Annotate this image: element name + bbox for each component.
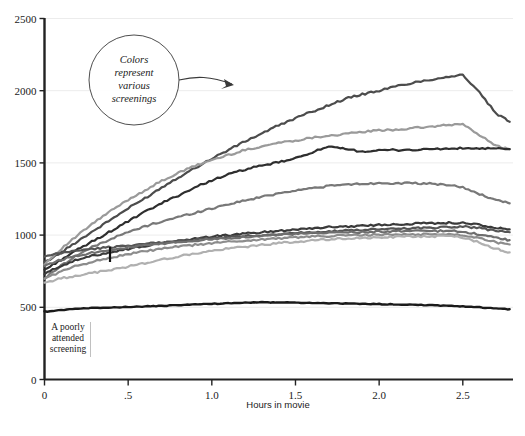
callout-arrow-curve [179,77,232,84]
x-tick-label-0: 0 [42,389,48,401]
x-axis-title: Hours in movie [246,399,309,410]
y-tick-label-0: 0 [31,374,37,386]
callout-line-1: Colors [120,54,149,65]
callout-line-3: various [118,80,150,91]
poorly-attended-annotation: A poorly attended screening [50,322,91,357]
note-line-3: screening [50,344,87,354]
series-line-screening-9 [45,235,510,282]
y-tick-label-2000: 2000 [15,85,38,97]
x-tick-label-.5: .5 [124,389,133,401]
chart-canvas: 05001000150020002500 0.51.01.52.02.5 Hou… [0,0,525,436]
y-tick-label-500: 500 [20,301,37,313]
note-line-2: attended [52,333,84,343]
x-tick-label-1.0: 1.0 [205,389,219,401]
y-tick-label-2500: 2500 [15,13,38,25]
y-tick-label-1500: 1500 [15,157,38,169]
cut-off-caption [30,429,330,436]
series-line-screening-8 [45,234,510,279]
y-tick-label-1000: 1000 [15,229,38,241]
x-tick-label-2.0: 2.0 [372,389,386,401]
callout-line-4: screenings [112,93,157,104]
callout-line-2: represent [115,67,155,78]
attendance-line-chart: 05001000150020002500 0.51.01.52.02.5 Hou… [0,0,525,436]
y-axis-ticks-group: 05001000150020002500 [15,13,45,386]
note-line-1: A poorly [51,322,85,332]
colors-callout-annotation: Colors represent various screenings [89,35,234,125]
x-tick-label-2.5: 2.5 [456,389,470,401]
x-axis-ticks-group: 0.51.01.52.02.5 [42,380,470,401]
